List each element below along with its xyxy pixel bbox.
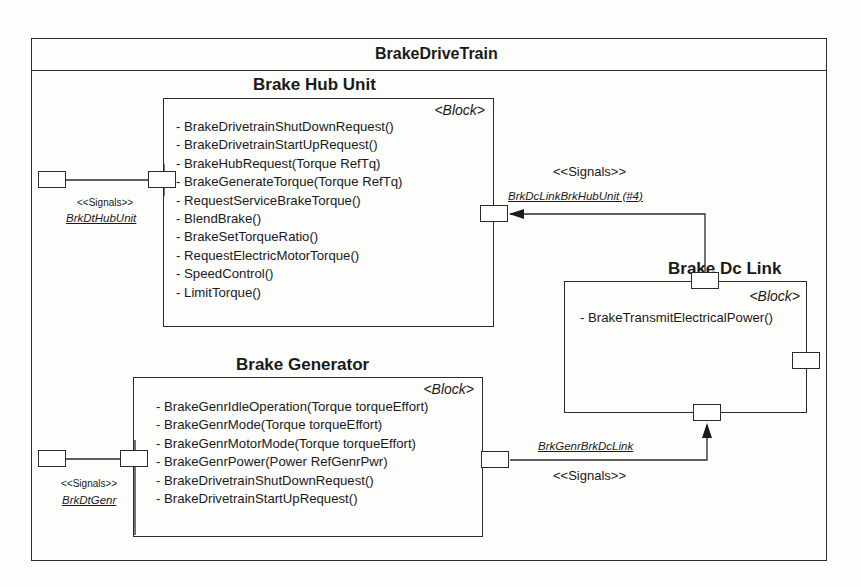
brake-hub-unit-stereotype: <Block> (434, 102, 485, 118)
brake-dc-link-block[interactable]: <Block> - BrakeTransmitElectricalPower() (564, 281, 807, 413)
port-dc-link-bottom[interactable] (693, 404, 721, 421)
brake-generator-title: Brake Generator (236, 355, 369, 375)
port-hub-unit-right[interactable] (480, 205, 508, 222)
brake-generator-operations: - BrakeGenrIdleOperation(Torque torqueEf… (156, 398, 428, 508)
operation: - BrakeDrivetrainShutDownRequest() (176, 118, 403, 136)
operation: - BrakeDrivetrainStartUpRequest() (156, 490, 428, 508)
port-dc-link-right[interactable] (792, 352, 820, 369)
operation: - BrakeGenrMode(Torque torqueEffort) (156, 416, 428, 434)
port-hub-unit-left[interactable] (148, 171, 176, 188)
connector-name-brkdtgenr: BrkDtGenr (62, 494, 116, 506)
connector-name-brkgenrbrkdclink: BrkGenrBrkDcLink (538, 440, 633, 452)
connector-name-brkdthubunit: BrkDtHubUnit (66, 212, 136, 224)
operation: - BrakeGenrIdleOperation(Torque torqueEf… (156, 398, 428, 416)
operation: - BrakeGenerateTorque(Torque RefTq) (176, 173, 403, 191)
operation: - BrakeGenrPower(Power RefGenrPwr) (156, 453, 428, 471)
operation: - BrakeGenrMotorMode(Torque torqueEffort… (156, 435, 428, 453)
connector-stereotype: <<Signals>> (553, 164, 626, 179)
operation: - RequestServiceBrakeTorque() (176, 192, 403, 210)
port-frame-hub[interactable] (38, 171, 66, 188)
operation: - LimitTorque() (176, 284, 403, 302)
operation: - BrakeSetTorqueRatio() (176, 228, 403, 246)
operation: - SpeedControl() (176, 265, 403, 283)
operation: - RequestElectricMotorTorque() (176, 247, 403, 265)
brake-hub-unit-operations: - BrakeDrivetrainShutDownRequest() - Bra… (176, 118, 403, 302)
connector-stereotype: <<Signals>> (61, 478, 117, 489)
brake-dc-link-stereotype: <Block> (749, 288, 800, 304)
brake-dc-link-title: Brake Dc Link (668, 259, 781, 279)
brake-hub-unit-title: Brake Hub Unit (253, 75, 376, 95)
port-frame-generator[interactable] (38, 450, 66, 467)
connector-name-brkdclinkbrkhubunit: BrkDcLinkBrkHubUnit (#4) (508, 190, 643, 202)
brake-generator-block[interactable]: <Block> - BrakeGenrIdleOperation(Torque … (133, 377, 483, 537)
port-generator-left[interactable] (120, 450, 148, 467)
operation: - BrakeHubRequest(Torque RefTq) (176, 155, 403, 173)
operation: - BrakeDrivetrainStartUpRequest() (176, 136, 403, 154)
connector-stereotype: <<Signals>> (77, 197, 133, 208)
brake-hub-unit-block[interactable]: <Block> - BrakeDrivetrainShutDownRequest… (163, 98, 494, 327)
operation: - BlendBrake() (176, 210, 403, 228)
operation: - BrakeTransmitElectricalPower() (580, 309, 773, 327)
operation: - BrakeDrivetrainShutDownRequest() (156, 472, 428, 490)
port-dc-link-top[interactable] (691, 272, 719, 289)
brake-generator-stereotype: <Block> (423, 381, 474, 397)
port-generator-right[interactable] (481, 451, 509, 468)
connector-stereotype: <<Signals>> (553, 468, 626, 483)
